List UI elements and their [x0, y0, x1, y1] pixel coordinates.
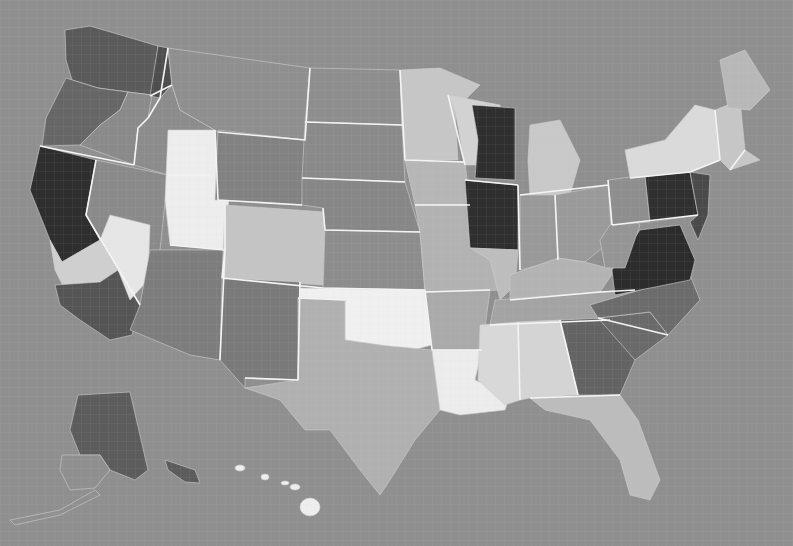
region-HI[interactable]: [235, 465, 320, 516]
region-KS[interactable]: [323, 230, 425, 290]
region-CO[interactable]: [222, 205, 325, 285]
region-MI[interactable]: [528, 120, 580, 197]
us-county-choropleth-map: [0, 0, 793, 546]
region-ND[interactable]: [305, 68, 402, 125]
region-AK-aleutians: [10, 490, 100, 525]
region-ME[interactable]: [720, 50, 770, 110]
region-WI-east[interactable]: [472, 105, 515, 180]
regions-layer: [10, 26, 770, 525]
map-canvas: [0, 0, 793, 546]
region-NY[interactable]: [625, 105, 720, 178]
region-IL-north[interactable]: [465, 180, 518, 250]
region-IN[interactable]: [520, 195, 558, 270]
region-AK-southwest[interactable]: [60, 455, 110, 490]
region-PA-west[interactable]: [608, 175, 650, 225]
region-PA-east[interactable]: [645, 172, 698, 222]
region-SD[interactable]: [302, 122, 405, 182]
region-AK-panhandle[interactable]: [165, 460, 200, 483]
region-FL[interactable]: [530, 395, 660, 500]
region-WY[interactable]: [215, 130, 305, 205]
region-IA[interactable]: [405, 160, 470, 205]
region-NM[interactable]: [220, 278, 300, 388]
